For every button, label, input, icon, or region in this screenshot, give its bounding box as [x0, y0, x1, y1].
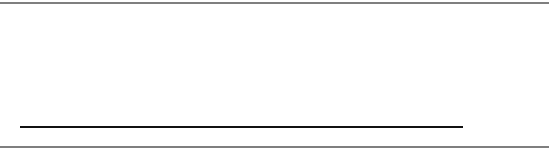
polyribosome-diagram — [0, 0, 549, 162]
